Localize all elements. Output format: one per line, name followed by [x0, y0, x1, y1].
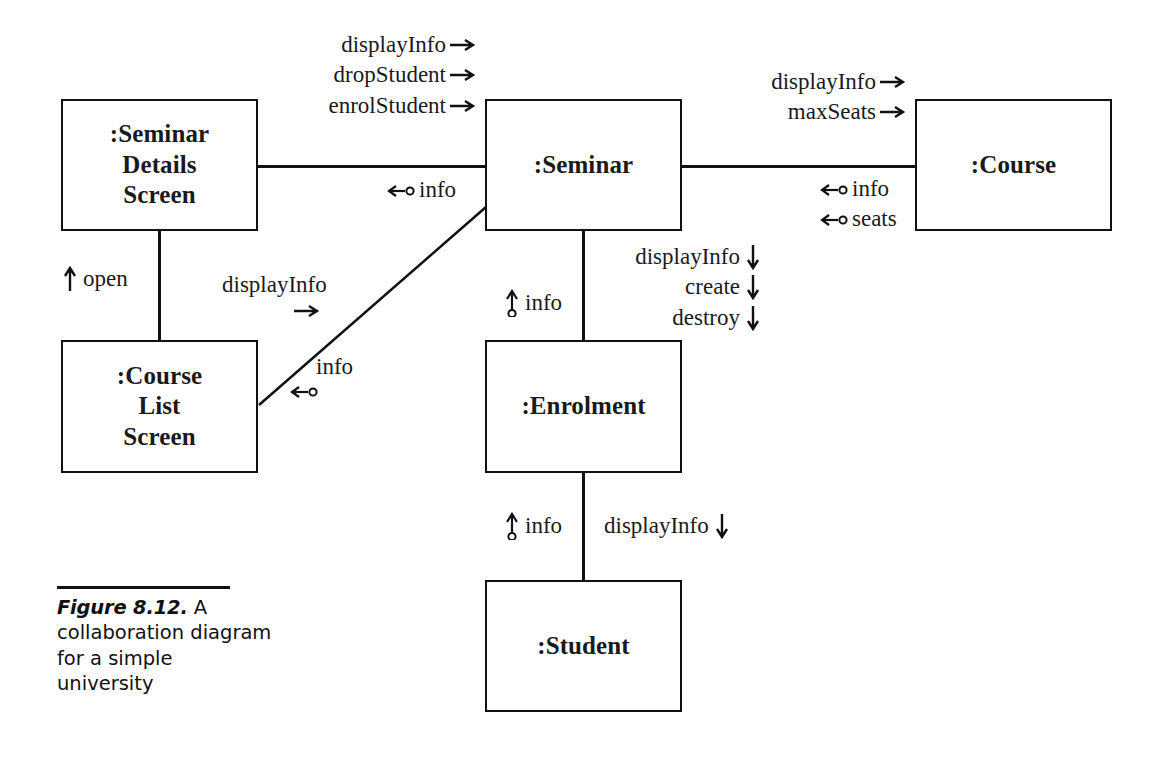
- figure-caption: Figure 8.12. A collaboration diagram for…: [57, 586, 272, 697]
- message-dropstudent: dropStudent: [255, 60, 477, 90]
- message-open: open: [63, 264, 128, 294]
- message-group-seminar-to-enrolment-return: info: [504, 288, 562, 318]
- message-create: create: [590, 272, 760, 302]
- object-course-list-screen[interactable]: :Course List Screen: [61, 340, 258, 473]
- object-student[interactable]: :Student: [485, 580, 682, 712]
- message-group-seminar-to-course-calls: displayInfo maxSeats: [690, 67, 907, 128]
- object-label-line: :Seminar: [110, 119, 209, 150]
- message-displayinfo: displayInfo: [690, 67, 907, 97]
- message-return-info: info: [504, 511, 562, 541]
- arrow-right-icon: [879, 105, 907, 119]
- arrow-down-icon: [746, 274, 760, 300]
- message-displayinfo: displayInfo: [604, 511, 729, 541]
- message-return-info: info: [387, 175, 456, 205]
- message-return-info: info: [504, 288, 562, 318]
- message-destroy: destroy: [590, 303, 760, 333]
- message-return-seats: seats: [820, 204, 897, 234]
- object-label-line: Details: [122, 150, 196, 181]
- arrow-down-icon: [746, 305, 760, 331]
- object-label-line: Screen: [123, 422, 195, 453]
- object-enrolment[interactable]: :Enrolment: [485, 340, 682, 473]
- arrow-right-icon: [879, 75, 907, 89]
- object-label-line: Screen: [123, 180, 195, 211]
- message-group-courselist-to-details: open: [63, 264, 128, 294]
- message-group-details-to-seminar-calls: displayInfo dropStudent enrolStudent: [255, 30, 477, 121]
- message-group-enrolment-to-student-return: info: [504, 511, 562, 541]
- message-return-info: info: [820, 174, 897, 204]
- arrow-up-icon: [63, 266, 77, 292]
- message-group-seminar-to-enrolment-calls: displayInfo create destroy: [590, 242, 760, 333]
- arrow-right-icon: [449, 99, 477, 113]
- arrow-right-icon: [449, 68, 477, 82]
- message-displayinfo: displayInfo: [590, 242, 760, 272]
- message-group-seminar-to-course-returns: info seats: [820, 174, 897, 235]
- message-displayinfo: displayInfo: [255, 30, 477, 60]
- object-seminar[interactable]: :Seminar: [485, 99, 682, 231]
- return-arrow-left-icon: [387, 184, 417, 198]
- object-label-line: List: [138, 391, 180, 422]
- return-arrow-left-icon: [820, 183, 850, 197]
- arrow-down-icon: [715, 513, 729, 539]
- message-group-courselist-to-seminar-return: info: [290, 352, 353, 407]
- message-group-enrolment-to-student-call: displayInfo: [604, 511, 729, 541]
- caption-rule: [57, 586, 230, 589]
- link-seminar-to-enrolment: [582, 229, 585, 342]
- object-label-line: :Course: [971, 150, 1056, 181]
- object-seminar-details-screen[interactable]: :Seminar Details Screen: [61, 99, 258, 231]
- message-enrolstudent: enrolStudent: [255, 91, 477, 121]
- arrow-down-icon: [746, 244, 760, 270]
- return-arrow-left-icon: [820, 213, 850, 227]
- object-label-line: :Seminar: [534, 150, 633, 181]
- arrow-right-icon: [449, 38, 477, 52]
- caption-text: Figure 8.12. A collaboration diagram for…: [57, 595, 272, 697]
- arrow-row: [222, 296, 327, 326]
- message-maxseats: maxSeats: [690, 97, 907, 127]
- arrow-right-icon: [293, 304, 321, 318]
- object-course[interactable]: :Course: [915, 99, 1112, 231]
- collaboration-diagram: :Seminar Details Screen :Seminar :Course…: [0, 0, 1169, 763]
- link-enrolment-to-student: [582, 471, 585, 582]
- object-label-line: :Course: [117, 361, 202, 392]
- message-group-details-to-seminar-returns: info: [387, 175, 456, 205]
- return-arrow-up-icon: [504, 512, 520, 540]
- return-arrow-up-icon: [504, 289, 520, 317]
- caption-figure-label: Figure 8.12.: [57, 596, 188, 619]
- object-label-line: :Enrolment: [521, 391, 645, 422]
- message-group-courselist-to-seminar-call: displayInfo: [222, 270, 327, 327]
- return-arrow-left-icon: [290, 385, 320, 399]
- object-label-line: :Student: [537, 631, 630, 662]
